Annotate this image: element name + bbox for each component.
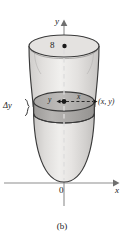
figure-caption: (b): [0, 222, 124, 231]
disk-radius-label: x: [77, 93, 80, 101]
curve-point-label: (x, y): [98, 98, 114, 106]
delta-y-brace: [26, 100, 30, 116]
y-axis-label: y: [55, 17, 59, 26]
origin-label: 0: [59, 186, 64, 195]
figure-container: y x 8 Δy y x (x, y) 0 (b): [0, 0, 124, 242]
y-axis-arrowhead: [61, 20, 68, 27]
disk-center-dot: [62, 99, 67, 104]
x-axis-label: x: [115, 186, 119, 195]
top-value-label: 8: [50, 41, 55, 50]
top-point-dot: [62, 44, 66, 48]
solid-of-revolution-diagram: [0, 0, 124, 242]
delta-y-label: Δy: [3, 101, 12, 110]
disk-height-label: y: [48, 96, 51, 104]
